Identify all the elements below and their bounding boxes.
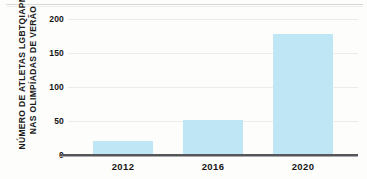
y-tick-label: 0 (30, 151, 64, 160)
x-tick-label-2016: 2016 (183, 161, 243, 173)
y-tick-label: 200 (30, 15, 64, 24)
bar-2016 (183, 120, 243, 155)
x-axis-tick-labels: 2012 2016 2020 (68, 161, 358, 177)
x-axis-baseline (60, 154, 358, 156)
y-tick-label: 100 (30, 83, 64, 92)
x-tick-label-2020: 2020 (273, 161, 333, 173)
y-axis-title-line-1: NÚMERO DE ATLETAS LGBTQIAPN+ (17, 0, 27, 150)
y-tick-label: 150 (30, 49, 64, 58)
x-tick-label-2012: 2012 (93, 161, 153, 173)
plot-area (68, 19, 358, 155)
bar-2012 (93, 141, 153, 155)
gridline-200 (68, 19, 358, 20)
bar-2020 (273, 34, 333, 155)
y-axis-tick-labels: 200 150 100 50 0 (30, 0, 64, 179)
chart-screenshot: NÚMERO DE ATLETAS LGBTQIAPN+ NAS OLIMPÍA… (0, 0, 367, 179)
y-tick-label: 50 (30, 117, 64, 126)
